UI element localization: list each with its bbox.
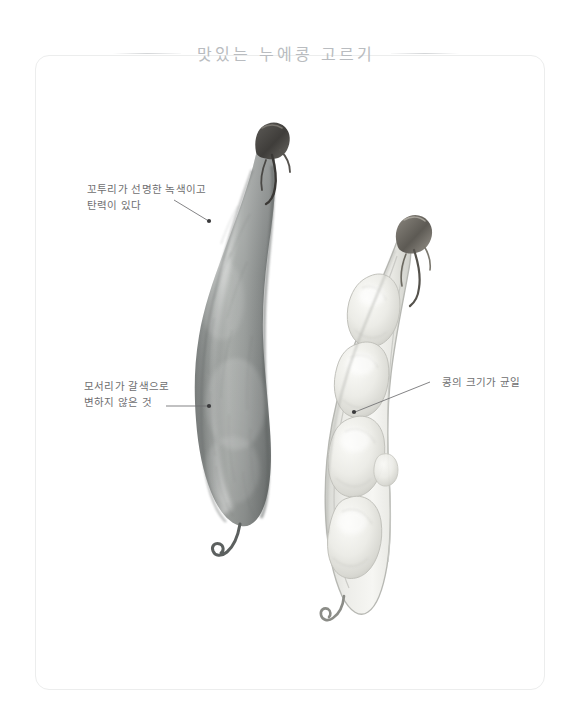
left-pod-bulge-2 bbox=[204, 436, 260, 504]
right-pod bbox=[321, 215, 432, 620]
bean-partial bbox=[374, 454, 398, 486]
left-pod-tail bbox=[212, 524, 240, 555]
bean-illustration bbox=[0, 0, 572, 725]
left-pod-bulge-3 bbox=[200, 260, 244, 340]
right-pod-tail bbox=[321, 596, 344, 620]
annotation-edge: 모서리가 갈색으로 변하지 않은 것 bbox=[84, 378, 244, 410]
annotation-pod-color: 꼬투리가 선명한 녹색이고 탄력이 있다 bbox=[87, 181, 247, 213]
annotation-bean-size: 콩의 크기가 균일 bbox=[442, 374, 562, 390]
page-root: 맛있는 누에콩 고르기 bbox=[0, 0, 572, 725]
